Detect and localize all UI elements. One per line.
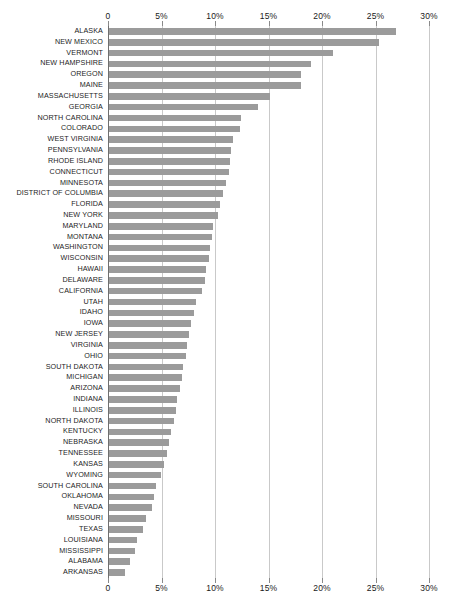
bar-row: MARYLAND bbox=[0, 221, 459, 232]
bar-row: RHODE ISLAND bbox=[0, 156, 459, 167]
bar-row: GEORGIA bbox=[0, 102, 459, 113]
bar bbox=[109, 439, 169, 446]
bar-row: CALIFORNIA bbox=[0, 286, 459, 297]
bar bbox=[109, 266, 206, 273]
bar bbox=[109, 429, 171, 436]
bar-row: FLORIDA bbox=[0, 199, 459, 210]
bar bbox=[109, 147, 231, 154]
bar-row: WASHINGTON bbox=[0, 242, 459, 253]
bar-row: NEW YORK bbox=[0, 210, 459, 221]
bar bbox=[109, 136, 233, 143]
category-label: WASHINGTON bbox=[0, 242, 103, 253]
bar bbox=[109, 288, 202, 295]
bar bbox=[109, 418, 174, 425]
category-label: OHIO bbox=[0, 351, 103, 362]
bar bbox=[109, 450, 167, 457]
category-label: DELAWARE bbox=[0, 275, 103, 286]
bar-row: OHIO bbox=[0, 351, 459, 362]
bar-row: UTAH bbox=[0, 297, 459, 308]
category-label: IDAHO bbox=[0, 307, 103, 318]
bar bbox=[109, 277, 205, 284]
category-label: MASSACHUSETTS bbox=[0, 91, 103, 102]
bar bbox=[109, 201, 220, 208]
category-label: ILLINOIS bbox=[0, 405, 103, 416]
bar bbox=[109, 407, 176, 414]
x-tick-label-bottom-15%: 15% bbox=[260, 580, 277, 596]
category-label: OREGON bbox=[0, 69, 103, 80]
bar-row: WEST VIRGINIA bbox=[0, 134, 459, 145]
x-axis-bottom-ticks: 05%10%15%20%25%30% bbox=[0, 580, 459, 596]
bar bbox=[109, 320, 191, 327]
category-label: CONNECTICUT bbox=[0, 167, 103, 178]
bar-row: LOUISIANA bbox=[0, 535, 459, 546]
category-label: NEW JERSEY bbox=[0, 329, 103, 340]
category-label: RHODE ISLAND bbox=[0, 156, 103, 167]
category-label: NEW YORK bbox=[0, 210, 103, 221]
bar-row: DISTRICT OF COLUMBIA bbox=[0, 188, 459, 199]
category-label: MICHIGAN bbox=[0, 372, 103, 383]
category-label: MARYLAND bbox=[0, 221, 103, 232]
bar bbox=[109, 255, 209, 262]
bar-row: NORTH CAROLINA bbox=[0, 113, 459, 124]
bar-row: NEW MEXICO bbox=[0, 37, 459, 48]
bar bbox=[109, 353, 186, 360]
bar-row: IOWA bbox=[0, 318, 459, 329]
bar bbox=[109, 115, 241, 122]
category-label: MAINE bbox=[0, 80, 103, 91]
category-label: KANSAS bbox=[0, 459, 103, 470]
bar-row: SOUTH DAKOTA bbox=[0, 362, 459, 373]
bar-row: KENTUCKY bbox=[0, 426, 459, 437]
bar-row: MAINE bbox=[0, 80, 459, 91]
category-label: NEW HAMPSHIRE bbox=[0, 58, 103, 69]
bar bbox=[109, 548, 135, 555]
category-label: VIRGINIA bbox=[0, 340, 103, 351]
bar-row: MINNESOTA bbox=[0, 178, 459, 189]
bar-row: NEBRASKA bbox=[0, 437, 459, 448]
bar-row: NEW JERSEY bbox=[0, 329, 459, 340]
bar-row: ILLINOIS bbox=[0, 405, 459, 416]
bar-row: VIRGINIA bbox=[0, 340, 459, 351]
bar bbox=[109, 223, 213, 230]
bar-row: NORTH DAKOTA bbox=[0, 416, 459, 427]
category-label: ALASKA bbox=[0, 26, 103, 37]
bar bbox=[109, 190, 223, 197]
bar bbox=[109, 158, 230, 165]
category-label: COLORADO bbox=[0, 123, 103, 134]
bar bbox=[109, 331, 189, 338]
category-label: GEORGIA bbox=[0, 102, 103, 113]
category-label: INDIANA bbox=[0, 394, 103, 405]
bar bbox=[109, 126, 240, 133]
bar-row: HAWAII bbox=[0, 264, 459, 275]
bar-row: COLORADO bbox=[0, 123, 459, 134]
bar bbox=[109, 461, 164, 468]
bar bbox=[109, 104, 258, 111]
category-label: MINNESOTA bbox=[0, 178, 103, 189]
category-label: LOUISIANA bbox=[0, 535, 103, 546]
category-label: ARIZONA bbox=[0, 383, 103, 394]
bar-row: IDAHO bbox=[0, 307, 459, 318]
category-label: FLORIDA bbox=[0, 199, 103, 210]
x-tick-label-bottom-25%: 25% bbox=[367, 580, 384, 596]
bar bbox=[109, 212, 218, 219]
bar bbox=[109, 526, 143, 533]
category-label: TEXAS bbox=[0, 524, 103, 535]
bar bbox=[109, 180, 226, 187]
bar bbox=[109, 39, 379, 46]
bar bbox=[109, 82, 301, 89]
bar-row: TENNESSEE bbox=[0, 448, 459, 459]
category-label: TENNESSEE bbox=[0, 448, 103, 459]
bar bbox=[109, 342, 187, 349]
category-label: WISCONSIN bbox=[0, 253, 103, 264]
bar bbox=[109, 71, 301, 78]
bar bbox=[109, 504, 152, 511]
category-label: SOUTH CAROLINA bbox=[0, 481, 103, 492]
bar-row: MICHIGAN bbox=[0, 372, 459, 383]
category-label: HAWAII bbox=[0, 264, 103, 275]
bar bbox=[109, 537, 137, 544]
bar-row: PENNSYLVANIA bbox=[0, 145, 459, 156]
category-label: ALABAMA bbox=[0, 556, 103, 567]
bar-row: NEW HAMPSHIRE bbox=[0, 58, 459, 69]
bar-row: ARKANSAS bbox=[0, 567, 459, 578]
bar bbox=[109, 50, 333, 57]
category-label: MISSISSIPPI bbox=[0, 546, 103, 557]
